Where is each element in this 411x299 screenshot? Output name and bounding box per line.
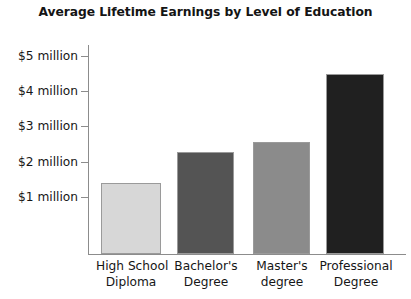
chart-title: Average Lifetime Earnings by Level of Ed…: [0, 5, 411, 19]
bar-professional-degree: [326, 74, 384, 254]
bar-masters-degree: [253, 142, 310, 254]
y-tick-3: [81, 126, 88, 127]
bar-bachelors-degree: [177, 152, 234, 254]
x-label-line-2: Diploma: [96, 274, 166, 290]
y-tick-1: [81, 197, 88, 198]
x-axis-label-masters-degree: Master's degree: [247, 258, 317, 290]
y-axis-line: [88, 45, 89, 255]
bar-high-school-diploma: [101, 183, 161, 254]
x-axis-line: [88, 254, 406, 255]
y-tick-5: [81, 56, 88, 57]
y-axis-label-4: $4 million: [18, 85, 78, 97]
x-axis-label-professional-degree: Professional Degree: [315, 258, 397, 290]
y-axis-label-1: $1 million: [18, 191, 78, 203]
x-axis-label-bachelors-degree: Bachelor's Degree: [171, 258, 241, 290]
y-tick-2: [81, 162, 88, 163]
y-axis-label-2: $2 million: [18, 156, 78, 168]
x-label-line-1: Professional: [315, 258, 397, 274]
x-label-line-2: Degree: [171, 274, 241, 290]
y-axis-label-5: $5 million: [18, 50, 78, 62]
y-axis-label-3: $3 million: [18, 120, 78, 132]
x-label-line-1: Master's: [247, 258, 317, 274]
y-tick-4: [81, 91, 88, 92]
x-label-line-1: Bachelor's: [171, 258, 241, 274]
x-label-line-2: Degree: [315, 274, 397, 290]
x-label-line-1: High School: [96, 258, 166, 274]
x-label-line-2: degree: [247, 274, 317, 290]
x-axis-label-high-school-diploma: High School Diploma: [96, 258, 166, 290]
bar-chart: Average Lifetime Earnings by Level of Ed…: [0, 0, 411, 299]
